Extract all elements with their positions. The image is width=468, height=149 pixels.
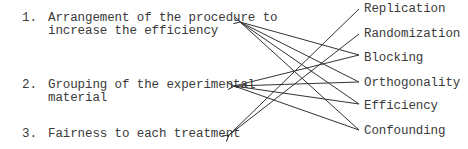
line-efficiency-to-item2 [234, 86, 359, 104]
connector-lines [0, 0, 468, 149]
line-blocking-to-item2 [234, 55, 359, 86]
line-efficiency-to-item1 [240, 22, 359, 104]
line-confounding-to-item2 [234, 86, 359, 130]
matching-diagram: 1. Arrangement of the procedure to incre… [0, 0, 468, 149]
line-orthogonality-to-item1 [240, 22, 359, 82]
